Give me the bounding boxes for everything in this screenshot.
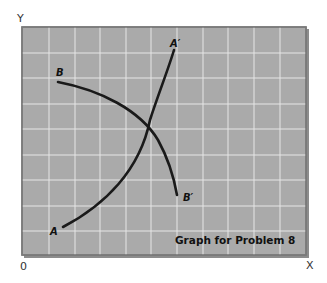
plot-area: A A′ B B′ Graph for Problem 8 [0, 0, 327, 283]
label-a: A [49, 226, 58, 237]
label-b-prime: B′ [183, 192, 194, 203]
graph-caption: Graph for Problem 8 [175, 234, 295, 246]
plot-background [22, 27, 306, 255]
label-a-prime: A′ [169, 38, 181, 49]
graph-figure: Y X 0 [0, 0, 327, 283]
label-b: B [56, 67, 64, 78]
